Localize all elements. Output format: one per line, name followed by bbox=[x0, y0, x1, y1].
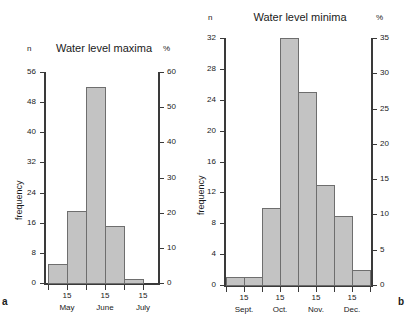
right-y-axis-tick-label: 35 bbox=[380, 33, 404, 42]
right-y-axis-tick bbox=[159, 283, 164, 284]
x-axis-month-label: Dec. bbox=[330, 305, 374, 314]
histogram-bar bbox=[352, 270, 371, 286]
y-axis-tick bbox=[40, 193, 45, 194]
x-axis-day-label: 15 bbox=[52, 291, 82, 300]
y-axis-tick bbox=[220, 254, 225, 255]
y-axis-tick-label: 4 bbox=[194, 249, 216, 258]
x-axis-tick bbox=[67, 285, 68, 290]
y-axis-tick-label: 24 bbox=[194, 95, 216, 104]
y-axis-tick bbox=[220, 285, 225, 286]
chart-panel-a: Water level maxima n % frequency 0816243… bbox=[0, 0, 200, 318]
y-axis-tick bbox=[40, 72, 45, 73]
plot-area-a: 08162432404856010203040506015May15June15… bbox=[0, 0, 200, 318]
y-axis-tick-label: 12 bbox=[194, 187, 216, 196]
y-axis-tick bbox=[40, 253, 45, 254]
right-y-axis-tick-label: 20 bbox=[380, 139, 404, 148]
right-y-axis-tick-label: 0 bbox=[380, 280, 404, 289]
plot-area-b: 0481216202428320510152025303515Sept.15Oc… bbox=[186, 0, 414, 318]
y-axis-tick-label: 16 bbox=[194, 157, 216, 166]
y-axis-tick bbox=[40, 132, 45, 133]
chart-panel-b: Water level minima n % frequency 0481216… bbox=[186, 0, 414, 318]
right-y-axis-tick bbox=[159, 248, 164, 249]
x-axis-day-label: 15 bbox=[128, 291, 158, 300]
right-y-axis-tick bbox=[159, 213, 164, 214]
panel-letter-b: b bbox=[398, 296, 404, 307]
y-axis-tick-label: 16 bbox=[14, 218, 36, 227]
histogram-bar bbox=[105, 226, 125, 284]
x-axis-tick bbox=[48, 285, 49, 290]
right-y-axis-tick bbox=[372, 109, 377, 110]
x-axis-tick bbox=[280, 287, 281, 292]
x-axis-day-label: 15 bbox=[90, 291, 120, 300]
x-axis-tick bbox=[352, 287, 353, 292]
x-axis-day-label: 15 bbox=[337, 293, 367, 302]
y-axis-tick-label: 48 bbox=[14, 97, 36, 106]
right-y-axis-tick bbox=[372, 38, 377, 39]
right-y-axis-tick bbox=[159, 72, 164, 73]
right-y-axis-tick-label: 15 bbox=[380, 174, 404, 183]
right-y-axis-tick bbox=[372, 144, 377, 145]
right-y-axis-tick-label: 30 bbox=[380, 68, 404, 77]
x-axis-tick bbox=[226, 287, 227, 292]
x-axis-tick bbox=[262, 287, 263, 292]
x-axis-tick bbox=[298, 287, 299, 292]
x-axis-day-label: 15 bbox=[265, 293, 295, 302]
y-axis-tick bbox=[40, 283, 45, 284]
right-y-axis-tick bbox=[159, 142, 164, 143]
x-axis-tick bbox=[316, 287, 317, 292]
y-axis-tick-label: 32 bbox=[194, 33, 216, 42]
right-y-axis-tick-label: 10 bbox=[380, 209, 404, 218]
y-axis-tick-label: 28 bbox=[194, 64, 216, 73]
x-axis-tick bbox=[143, 285, 144, 290]
y-axis-tick-label: 0 bbox=[14, 278, 36, 287]
y-axis-tick-label: 0 bbox=[194, 280, 216, 289]
x-axis-tick bbox=[86, 285, 87, 290]
y-axis-tick bbox=[40, 162, 45, 163]
x-axis-tick bbox=[244, 287, 245, 292]
y-axis-tick bbox=[220, 69, 225, 70]
y-axis-tick bbox=[220, 131, 225, 132]
histogram-bar bbox=[226, 277, 245, 286]
y-axis-tick bbox=[220, 223, 225, 224]
histogram-bar bbox=[67, 211, 87, 284]
right-y-axis-tick bbox=[372, 73, 377, 74]
histogram-bar bbox=[334, 216, 353, 286]
y-axis-tick-label: 56 bbox=[14, 67, 36, 76]
right-axis-spine bbox=[371, 38, 373, 286]
right-y-axis-tick bbox=[159, 107, 164, 108]
histogram-bar bbox=[262, 208, 281, 286]
histogram-bar bbox=[124, 279, 144, 284]
y-axis-tick-label: 8 bbox=[14, 248, 36, 257]
right-y-axis-tick-label: 5 bbox=[380, 245, 404, 254]
y-axis-tick-label: 32 bbox=[14, 157, 36, 166]
right-y-axis-tick-label: 25 bbox=[380, 104, 404, 113]
x-axis-tick bbox=[124, 285, 125, 290]
y-axis-tick bbox=[220, 38, 225, 39]
y-axis-tick bbox=[220, 192, 225, 193]
x-axis-month-label: July bbox=[121, 303, 165, 312]
y-axis-tick bbox=[220, 162, 225, 163]
right-y-axis-tick bbox=[372, 285, 377, 286]
right-y-axis-tick bbox=[159, 178, 164, 179]
y-axis-tick-label: 8 bbox=[194, 218, 216, 227]
y-axis-tick bbox=[220, 100, 225, 101]
x-axis-tick bbox=[370, 287, 371, 292]
x-axis-day-label: 15 bbox=[229, 293, 259, 302]
y-axis-tick bbox=[40, 223, 45, 224]
right-y-axis-tick bbox=[372, 179, 377, 180]
histogram-bar bbox=[48, 264, 68, 284]
panel-letter-a: a bbox=[2, 296, 8, 307]
right-y-axis-tick bbox=[372, 214, 377, 215]
y-axis-tick-label: 20 bbox=[194, 126, 216, 135]
histogram-bar bbox=[244, 277, 263, 286]
histogram-bar bbox=[316, 185, 335, 286]
y-axis-tick-label: 24 bbox=[14, 188, 36, 197]
x-axis-tick bbox=[105, 285, 106, 290]
x-axis-day-label: 15 bbox=[301, 293, 331, 302]
histogram-bar bbox=[86, 87, 106, 284]
right-y-axis-tick bbox=[372, 250, 377, 251]
y-axis-tick bbox=[40, 102, 45, 103]
x-axis-tick bbox=[334, 287, 335, 292]
histogram-bar bbox=[280, 38, 299, 286]
histogram-bar bbox=[298, 92, 317, 286]
